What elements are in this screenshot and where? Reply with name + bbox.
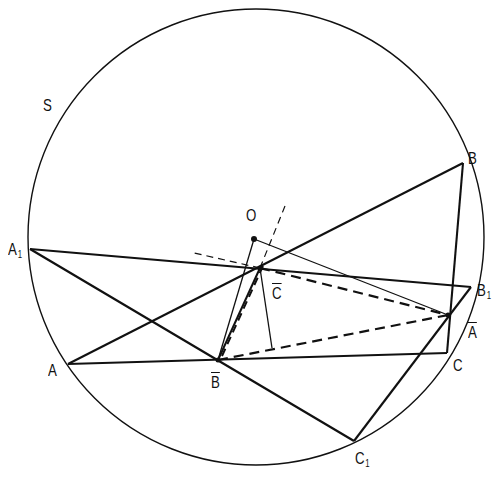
- point-cbar: [258, 266, 263, 271]
- label-a: A: [48, 362, 57, 379]
- segment-ac: [68, 353, 447, 364]
- label-a1: A1: [8, 241, 22, 260]
- label-o: O: [246, 207, 256, 224]
- segment-o-bbar: [218, 239, 254, 360]
- label-b1: B1: [477, 282, 491, 301]
- point-abar: [446, 313, 451, 318]
- point-bbar: [216, 358, 221, 363]
- label-c: C: [453, 357, 463, 374]
- label-c1: C1: [355, 450, 370, 469]
- dashed-cbar-abar: [260, 268, 448, 315]
- segment-cbar-foot: [260, 268, 272, 348]
- label-c1-main: C: [355, 449, 365, 468]
- label-a1-main: A: [8, 240, 17, 259]
- label-b1-sub: 1: [487, 290, 491, 301]
- segment-o-abar: [254, 239, 448, 315]
- dashed-extension-ne: [260, 206, 285, 268]
- label-s: S: [43, 97, 52, 114]
- segment-bbar-cbar: [218, 268, 260, 360]
- label-b: B: [468, 150, 477, 167]
- label-bbar: B: [211, 374, 220, 391]
- point-o: [251, 236, 257, 242]
- segment-a1c1: [30, 249, 354, 441]
- segment-ab: [68, 163, 463, 364]
- label-c1-sub: 1: [365, 458, 369, 469]
- segment-a1b1: [30, 249, 471, 287]
- label-b1-main: B: [477, 281, 486, 300]
- label-a1-sub: 1: [18, 249, 22, 260]
- geometry-canvas: [0, 0, 498, 486]
- label-abar: A: [468, 324, 477, 341]
- circle-triangle-diagram: S B A C O A1 B1 C1 C B A: [0, 0, 498, 486]
- label-cbar: C: [272, 285, 282, 302]
- segment-bc: [447, 163, 463, 353]
